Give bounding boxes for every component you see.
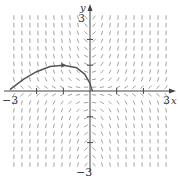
y-max-label: 3 — [78, 12, 85, 25]
direction-field-plot: y 3 −3 −3 3 x — [0, 0, 179, 179]
y-axis — [87, 4, 93, 172]
x-min-label: −3 — [2, 94, 18, 107]
y-axis-arrow-icon — [88, 4, 93, 11]
x-max-label: 3 — [163, 94, 170, 107]
curve-direction-arrow-icon — [61, 63, 66, 68]
x-axis-label: x — [171, 95, 177, 106]
y-min-label: −3 — [76, 166, 92, 179]
x-axis-arrow-icon — [169, 89, 176, 94]
